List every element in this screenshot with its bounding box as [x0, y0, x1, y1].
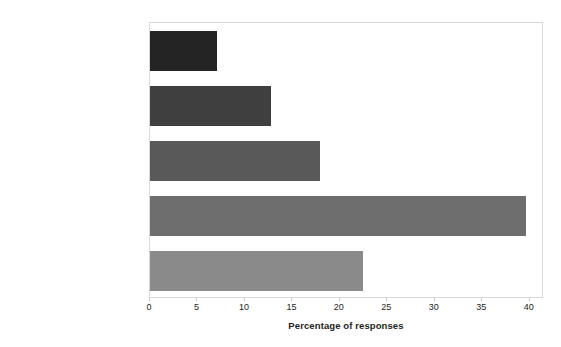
- x-tick-label: 35: [476, 302, 486, 312]
- bar-agree: [150, 196, 526, 236]
- x-tick-mark: [481, 298, 482, 301]
- bar-track: Disagree (2): [150, 78, 542, 133]
- chart-title: [0, 0, 561, 1]
- plot-area: Strongly disagree (1) Disagree (2) Neith…: [149, 22, 543, 298]
- x-tick-mark: [196, 298, 197, 301]
- x-tick-mark: [339, 298, 340, 301]
- x-tick-label: 30: [429, 302, 439, 312]
- x-axis-title: Percentage of responses: [149, 320, 543, 331]
- bar-strongly-disagree: [150, 31, 217, 71]
- x-tick-label: 5: [194, 302, 199, 312]
- x-tick-label: 10: [239, 302, 249, 312]
- x-tick-mark: [386, 298, 387, 301]
- x-tick-mark: [434, 298, 435, 301]
- bar-track: Strongly disagree (1): [150, 23, 542, 78]
- bar-track: Agree (4): [150, 189, 542, 244]
- bar-chart-figure: Strongly disagree (1) Disagree (2) Neith…: [0, 0, 561, 347]
- x-tick-label: 0: [146, 302, 151, 312]
- x-tick-label: 40: [524, 302, 534, 312]
- x-tick-mark: [244, 298, 245, 301]
- x-tick-label: 15: [286, 302, 296, 312]
- x-axis: 0510152025303540: [149, 298, 543, 299]
- bar-track: Neither agree nor disagree (3): [150, 133, 542, 188]
- x-tick-label: 20: [334, 302, 344, 312]
- bar-disagree: [150, 86, 271, 126]
- x-tick-label: 25: [381, 302, 391, 312]
- x-tick-mark: [291, 298, 292, 301]
- x-tick-mark: [529, 298, 530, 301]
- bar-track: Strongly agree (5): [150, 244, 542, 299]
- bar-strongly-agree: [150, 251, 363, 291]
- bar-neither: [150, 141, 320, 181]
- x-tick-mark: [149, 298, 150, 301]
